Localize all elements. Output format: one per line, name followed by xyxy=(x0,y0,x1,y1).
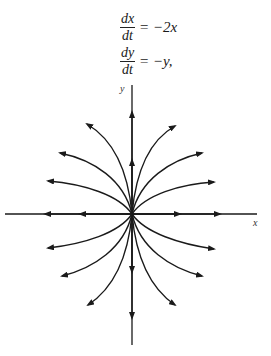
trajectory-lower-right-1 xyxy=(132,214,175,305)
trajectory-lower-left-1 xyxy=(88,214,132,305)
trajectory-lower-right-3 xyxy=(132,214,214,249)
x-axis-label: x xyxy=(252,217,258,228)
phase-portrait: y x xyxy=(0,0,271,356)
y-axis-label: y xyxy=(119,83,125,94)
trajectory-upper-right-2 xyxy=(132,153,202,214)
trajectory-lower-left-2 xyxy=(62,214,132,276)
trajectory-lower-left-3 xyxy=(48,214,132,248)
trajectory-upper-left-1 xyxy=(87,124,132,214)
trajectory-upper-left-3 xyxy=(48,181,132,214)
trajectories xyxy=(45,112,220,318)
trajectory-upper-right-1 xyxy=(132,126,175,214)
